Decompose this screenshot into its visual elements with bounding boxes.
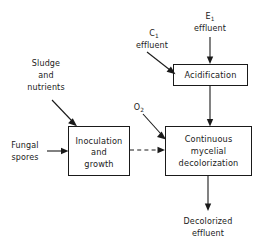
edge-inoculation-to-decolorization-arrowhead bbox=[158, 147, 166, 153]
stream-e1-symbol: E1 bbox=[205, 12, 214, 22]
stream-e1-effluent-label: effluent bbox=[194, 24, 226, 33]
node-inoculation-label-line2: and bbox=[91, 147, 107, 157]
stream-sludge-label-line2: and bbox=[38, 71, 54, 80]
edge-c1-to-acidification-line bbox=[147, 52, 170, 70]
stream-c1-effluent-label: effluent bbox=[136, 41, 168, 50]
process-flow-diagram: Acidification Inoculation and growth Con… bbox=[0, 0, 267, 250]
stream-oxygen-label: O2 bbox=[134, 103, 144, 113]
node-decolorization-label-line1: Continuous bbox=[185, 134, 233, 144]
stream-decolorized-effluent-label-line1: Decolorized bbox=[184, 217, 233, 226]
node-acidification-label: Acidification bbox=[184, 70, 236, 80]
edge-acidification-to-decolorization-arrowhead bbox=[207, 119, 213, 127]
edge-sludge-to-inoculation-line bbox=[52, 100, 72, 121]
stream-e1-symbol-subscript: 1 bbox=[211, 15, 215, 21]
edge-decolorization-to-effluent-arrowhead bbox=[205, 204, 211, 212]
stream-oxygen-subscript: 2 bbox=[140, 106, 144, 112]
node-decolorization-label-line2: mycelial bbox=[191, 146, 226, 156]
edge-oxygen-to-decolorization-line bbox=[143, 114, 161, 134]
edge-sludge-to-inoculation-arrowhead bbox=[68, 118, 77, 126]
stream-fungal-spores-label-line2: spores bbox=[11, 153, 38, 162]
node-inoculation-label-line1: Inoculation bbox=[76, 136, 123, 146]
stream-decolorized-effluent-label-line2: effluent bbox=[192, 229, 224, 238]
stream-sludge-label-line1: Sludge bbox=[32, 59, 60, 68]
node-inoculation-label-line3: growth bbox=[84, 159, 113, 169]
edge-e1-to-acidification-arrowhead bbox=[207, 57, 213, 65]
stream-c1-symbol: C1 bbox=[149, 29, 159, 39]
node-decolorization-label-line3: decolorization bbox=[179, 158, 239, 168]
edge-oxygen-to-decolorization-arrowhead bbox=[157, 132, 166, 140]
stream-sludge-label-line3: nutrients bbox=[27, 83, 64, 92]
diagram-canvas: Acidification Inoculation and growth Con… bbox=[0, 0, 267, 250]
edge-spores-to-inoculation-arrowhead bbox=[61, 148, 69, 154]
stream-c1-symbol-subscript: 1 bbox=[155, 32, 159, 38]
stream-fungal-spores-label-line1: Fungal bbox=[11, 141, 38, 150]
